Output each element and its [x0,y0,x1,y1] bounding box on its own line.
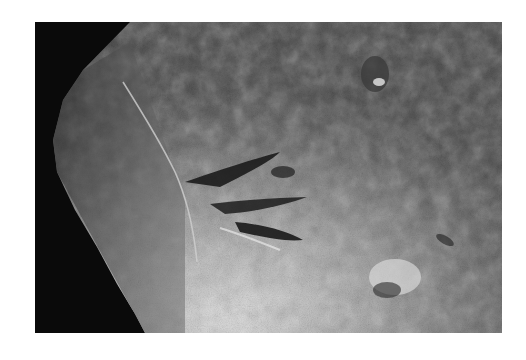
rock-photograph [35,22,502,333]
nodule [361,56,389,92]
rock-surface-illustration [35,22,502,333]
